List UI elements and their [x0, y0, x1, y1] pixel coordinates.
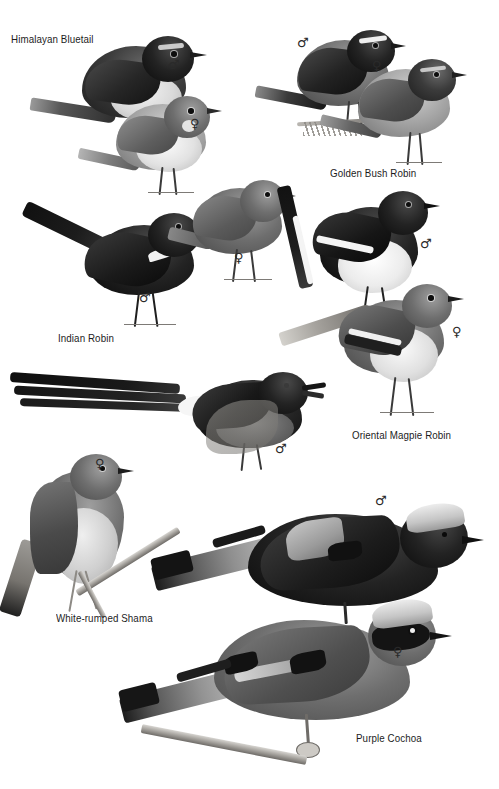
perch-ground [124, 324, 176, 331]
sex-symbol-female-oriental-magpie-robin: ♀ [452, 325, 462, 338]
eye [410, 628, 415, 633]
beak [452, 72, 467, 78]
sex-symbol-male-golden-bush-robin: ♂ [297, 36, 309, 49]
branch-perch [141, 724, 308, 765]
perch-ground [224, 279, 272, 286]
eye [406, 202, 411, 207]
sex-symbol-female-white-rumped-shama: ♀ [95, 457, 105, 470]
eye [373, 43, 378, 48]
sex-symbol-male-oriental-magpie-robin: ♂ [420, 237, 432, 250]
beak [391, 43, 406, 49]
beak [207, 108, 222, 114]
species-label-purple-cochoa: Purple Cochoa [356, 732, 422, 744]
field-guide-plate: Himalayan Bluetail ♂ ♀ Golden Bush Robin… [0, 0, 499, 789]
head [402, 284, 452, 328]
sex-symbol-female-purple-cochoa: ♀ [393, 645, 403, 658]
sex-symbol-female-himalayan-bluetail: ♀ [190, 117, 200, 130]
eye [284, 383, 289, 388]
leg-front [419, 133, 424, 165]
perch-ground [380, 412, 434, 419]
head [378, 191, 428, 235]
species-label-golden-bush-robin: Golden Bush Robin [330, 167, 416, 179]
leg-front [408, 378, 415, 416]
beak [424, 203, 440, 209]
beak [448, 296, 464, 302]
eye [442, 532, 447, 537]
bird-purple-cochoa-female [120, 592, 450, 772]
eye [434, 72, 439, 77]
sex-symbol-male-purple-cochoa: ♂ [375, 494, 387, 507]
leg-front [250, 250, 256, 282]
beak [462, 536, 484, 544]
leg-back [407, 132, 412, 165]
bird-golden-bush-robin-female [320, 55, 465, 175]
species-label-oriental-magpie-robin: Oriental Magpie Robin [352, 429, 451, 441]
sex-symbol-male-indian-robin: ♂ [139, 291, 151, 304]
sex-symbol-female-indian-robin: ♀ [234, 251, 244, 264]
eye [428, 295, 434, 301]
species-label-white-rumped-shama: White-rumped Shama [56, 612, 153, 624]
head [408, 59, 456, 101]
eye [265, 192, 270, 197]
leg-back [390, 377, 397, 416]
eye [188, 108, 194, 114]
species-label-indian-robin: Indian Robin [58, 332, 114, 344]
species-label-himalayan-bluetail: Himalayan Bluetail [11, 33, 94, 45]
wing [30, 482, 78, 574]
sex-symbol-male-white-rumped-shama: ♂ [275, 442, 287, 455]
beak [430, 632, 452, 640]
beak [118, 468, 134, 474]
sex-symbol-male-himalayan-bluetail: ♂ [168, 58, 180, 71]
beak [190, 52, 207, 58]
sex-symbol-female-golden-bush-robin: ♀ [372, 59, 382, 72]
eye [171, 51, 177, 57]
leg-front [152, 291, 159, 327]
